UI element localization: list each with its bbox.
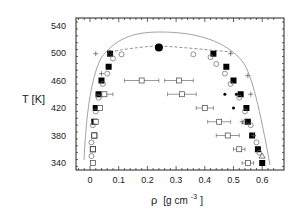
y-tick-label: 380	[51, 131, 66, 141]
y-tick-label: 340	[51, 158, 66, 168]
critical-point-marker	[155, 44, 163, 52]
x-tick-label: 0.2	[141, 175, 154, 185]
x-tick-label: 0.5	[227, 175, 240, 185]
x-tick-labels: 00.10.20.30.40.50.6	[87, 175, 268, 185]
data-markers	[89, 50, 265, 166]
y-tick-label: 420	[51, 103, 66, 113]
y-tick-labels: 340380420460500540	[51, 21, 66, 169]
x-tick-label: 0.6	[256, 175, 269, 185]
x-tick-label: 0.3	[170, 175, 183, 185]
x-tick-label: 0	[87, 175, 92, 185]
phase-diagram-chart: 340380420460500540 00.10.20.30.40.50.6 T…	[0, 0, 299, 218]
y-tick-label: 500	[51, 48, 66, 58]
y-axis-label: T [K]	[22, 93, 45, 105]
x-tick-label: 0.4	[199, 175, 212, 185]
y-tick-label: 460	[51, 76, 66, 86]
x-axis-label: ρ [g cm -3 ]	[151, 189, 203, 206]
y-tick-label: 540	[51, 21, 66, 31]
x-tick-label: 0.1	[112, 175, 125, 185]
